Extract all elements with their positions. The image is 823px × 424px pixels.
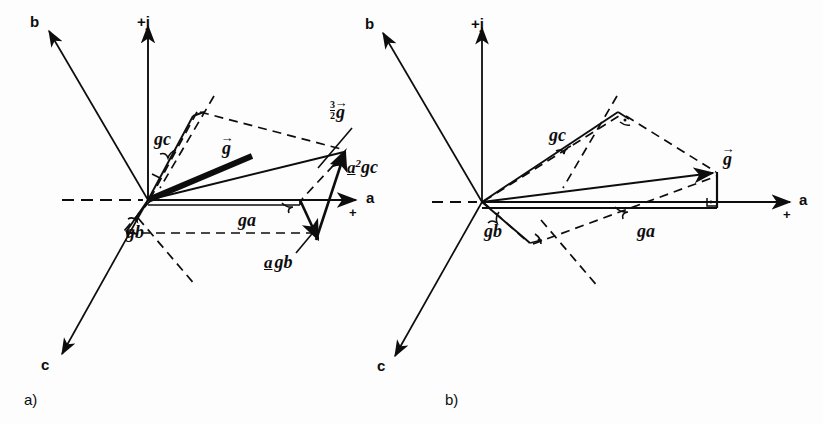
- axis-label-c: c: [41, 357, 49, 372]
- axis-label-b: b: [30, 14, 39, 29]
- label-g-b: gb: [484, 222, 502, 240]
- caption-panel-a: a): [24, 392, 37, 407]
- construction-dashed-lines: [124, 96, 345, 286]
- axis-label-a: a: [799, 192, 807, 207]
- axis-label-a: a: [366, 190, 374, 205]
- panel-a: +j a + b c gc ga gb →g 3 2: [0, 0, 412, 424]
- vector-arrow-accent: →: [722, 142, 734, 155]
- figure-space-vector-diagram: +j a + b c gc ga gb →g 3 2: [0, 0, 823, 424]
- axis-label-a-plus-sign: +: [783, 208, 791, 221]
- axis-label-b: b: [365, 16, 374, 31]
- label-g-c: gc: [154, 130, 171, 148]
- label-a-gb: agb: [264, 253, 293, 271]
- caption-panel-b: b): [445, 392, 458, 407]
- construction-dashed-lines: [484, 96, 717, 288]
- segment-g-a: [148, 199, 300, 213]
- label-g-c: gc: [549, 126, 566, 144]
- axis-label-c: c: [377, 358, 385, 373]
- label-g-resultant: →g: [723, 150, 732, 168]
- axis-label-imaginary: +j: [471, 16, 484, 31]
- label-three-halves-g: 3 2 →g: [330, 100, 345, 121]
- axis-label-a-plus-sign: +: [349, 206, 357, 219]
- vector-arrow-accent: →: [221, 131, 233, 144]
- panel-b: +j a + b c gc ga gb →g b): [411, 0, 823, 424]
- axis-label-imaginary: +j: [137, 14, 150, 29]
- label-g-resultant: →g: [222, 139, 231, 157]
- vector-g-resultant: [482, 173, 713, 202]
- vector-arrow-accent: →: [335, 96, 347, 109]
- label-g-a: ga: [238, 211, 256, 229]
- label-a2-gc: a2gc: [347, 158, 378, 176]
- label-g-a: ga: [637, 222, 655, 240]
- panel-b-drawing: [411, 0, 823, 424]
- vector-g-resultant: [148, 152, 344, 200]
- label-g-b: gb: [126, 223, 144, 241]
- axis-b: [49, 31, 148, 200]
